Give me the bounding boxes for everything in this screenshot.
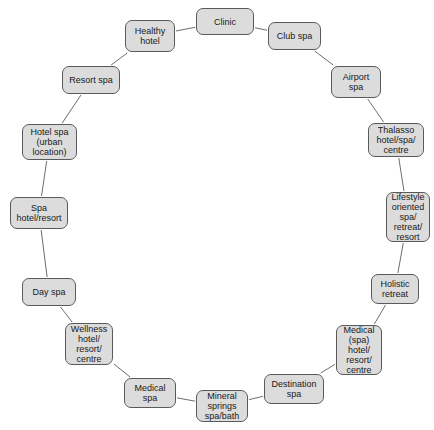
node-label: Medical spa [134,383,165,403]
node-medical-spa[interactable]: Medical spa [124,378,176,408]
edge-lifestyle-to-holistic [398,243,403,273]
node-label: Healthy hotel [135,26,166,46]
node-label: Spa hotel/resort [16,203,61,223]
node-label: Thalasso hotel/spa/ centre [376,125,415,155]
node-mineral[interactable]: Mineral springs spa/bath [196,390,248,422]
node-wellness[interactable]: Wellness hotel/ resort/ centre [65,323,113,365]
edge-spa-hotel-to-hotel-spa [42,161,47,196]
node-destination[interactable]: Destination spa [264,374,324,404]
edge-club-spa-to-airport-spa [315,51,334,65]
node-hotel-spa[interactable]: Hotel spa (urban location) [22,124,77,160]
edge-medical-hotel-to-destination [321,364,335,373]
node-lifestyle[interactable]: Lifestyle oriented spa/ retreat/ resort [386,192,430,242]
node-spa-hotel[interactable]: Spa hotel/resort [10,197,68,229]
edge-healthy-hotel-to-clinic [176,27,195,31]
edge-wellness-to-day-spa [61,307,73,322]
node-label: Wellness hotel/ resort/ centre [71,324,107,364]
node-label: Club spa [277,31,313,41]
edge-clinic-to-club-spa [255,28,267,31]
edge-destination-to-mineral [249,396,263,399]
node-label: Holistic retreat [380,279,409,299]
edge-day-spa-to-spa-hotel [41,230,47,277]
node-label: Lifestyle oriented spa/ retreat/ resort [391,192,424,242]
edge-thalasso-to-lifestyle [399,158,404,191]
node-clinic[interactable]: Clinic [196,8,254,35]
node-club-spa[interactable]: Club spa [268,22,321,50]
edge-mineral-to-medical-spa [177,398,195,401]
node-label: Hotel spa (urban location) [30,127,68,157]
node-airport-spa[interactable]: Airport spa [331,66,381,98]
node-resort-spa[interactable]: Resort spa [62,66,120,94]
node-medical-hotel[interactable]: Medical (spa) hotel/ resort/ centre [336,325,382,375]
node-label: Airport spa [343,72,370,92]
node-healthy-hotel[interactable]: Healthy hotel [125,20,175,52]
node-label: Day spa [32,287,65,297]
node-label: Medical (spa) hotel/ resort/ centre [343,325,374,375]
node-label: Destination spa [271,379,316,399]
edge-holistic-to-medical-hotel [374,305,385,324]
edge-hotel-spa-to-resort-spa [62,95,81,123]
circular-spa-typology-diagram: ClinicClub spaAirport spaThalasso hotel/… [0,0,434,430]
edge-resort-spa-to-healthy-hotel [111,53,127,65]
node-thalasso[interactable]: Thalasso hotel/spa/ centre [368,123,424,157]
edge-medical-spa-to-wellness [114,364,130,377]
edge-airport-spa-to-thalasso [368,99,384,122]
node-label: Resort spa [69,75,113,85]
node-holistic[interactable]: Holistic retreat [371,274,419,304]
node-day-spa[interactable]: Day spa [22,278,76,306]
node-label: Clinic [214,17,236,27]
node-label: Mineral springs spa/bath [205,391,240,421]
